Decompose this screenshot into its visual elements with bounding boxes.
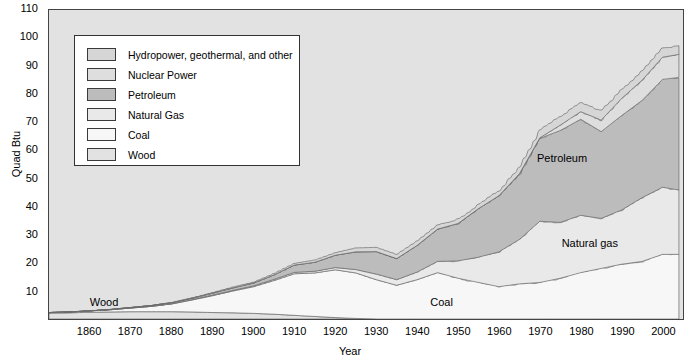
y-tick-label: 10 — [0, 285, 38, 297]
legend-item-label: Hydropower, geothermal, and other — [128, 49, 293, 61]
legend-item: Hydropower, geothermal, and other — [75, 45, 299, 64]
legend-swatch-icon — [87, 68, 116, 81]
legend-swatch-icon — [87, 148, 116, 161]
legend-item: Wood — [75, 145, 299, 164]
x-tick-label: 2000 — [638, 325, 688, 337]
legend-box: Hydropower, geothermal, and otherNuclear… — [74, 35, 300, 166]
y-tick-label: 100 — [0, 30, 38, 42]
legend-item-label: Nuclear Power — [128, 69, 197, 81]
annotation-wood: Wood — [90, 296, 119, 308]
legend-item-label: Petroleum — [128, 89, 176, 101]
chart-figure: Quad Btu Year 102030405060708090100110 1… — [0, 0, 700, 363]
legend-swatch-icon — [87, 48, 116, 61]
legend-item-label: Natural Gas — [128, 109, 184, 121]
legend-swatch-icon — [87, 108, 116, 121]
legend-item: Natural Gas — [75, 105, 299, 124]
y-tick-label: 50 — [0, 172, 38, 184]
legend-swatch-icon — [87, 128, 116, 141]
legend-item-label: Wood — [128, 149, 155, 161]
legend-item-label: Coal — [128, 129, 150, 141]
y-tick-label: 80 — [0, 87, 38, 99]
y-tick-label: 90 — [0, 59, 38, 71]
y-tick-label: 70 — [0, 115, 38, 127]
y-tick-label: 110 — [0, 2, 38, 14]
legend-item: Coal — [75, 125, 299, 144]
y-tick-label: 40 — [0, 200, 38, 212]
annotation-coal: Coal — [430, 296, 453, 308]
y-tick-label: 30 — [0, 228, 38, 240]
legend-item: Nuclear Power — [75, 65, 299, 84]
legend-swatch-icon — [87, 88, 116, 101]
legend-item: Petroleum — [75, 85, 299, 104]
annotation-petroleum: Petroleum — [537, 152, 587, 164]
y-tick-label: 20 — [0, 256, 38, 268]
y-tick-label: 60 — [0, 143, 38, 155]
x-axis-title: Year — [0, 345, 700, 357]
annotation-natural-gas: Natural gas — [562, 237, 618, 249]
